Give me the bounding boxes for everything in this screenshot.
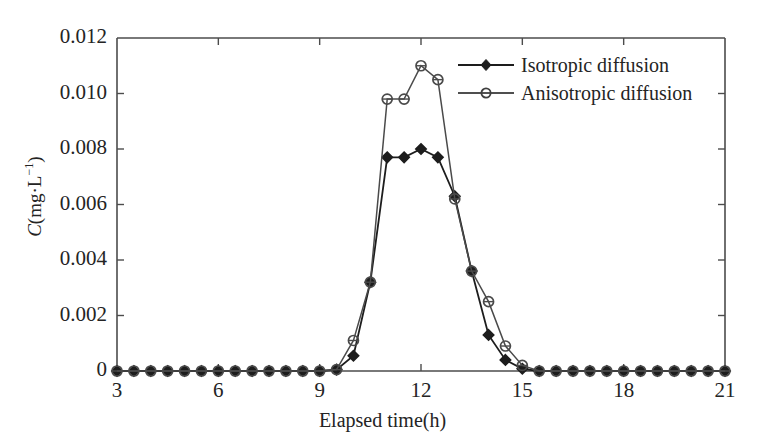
data-series (112, 61, 730, 376)
data-point-marker (433, 152, 443, 162)
x-tick-label: 3 (87, 378, 147, 403)
data-point-marker (483, 330, 493, 340)
series-isotropic (112, 144, 730, 376)
legend-item-isotropic: Isotropic diffusion (458, 53, 669, 77)
data-point-marker (500, 355, 510, 365)
data-point-marker (416, 144, 426, 154)
legend-label-isotropic: Isotropic diffusion (521, 54, 669, 77)
legend-item-anisotropic: Anisotropic diffusion (458, 81, 692, 105)
data-point-marker (399, 152, 409, 162)
x-tick-label: 9 (290, 378, 350, 403)
y-tick-label: 0.006 (0, 191, 107, 216)
chart-figure: 00.0020.0040.0060.0080.0100.012 36912151… (0, 0, 765, 446)
y-tick-label: 0.002 (0, 302, 107, 327)
x-tick-label: 12 (391, 378, 451, 403)
series-anisotropic (112, 61, 730, 376)
legend-swatch-isotropic (458, 56, 514, 74)
data-point-marker (382, 152, 392, 162)
x-tick-label: 6 (188, 378, 248, 403)
x-tick-label: 21 (695, 378, 755, 403)
y-tick-label: 0.010 (0, 80, 107, 105)
x-axis-label: Elapsed time(h) (0, 409, 765, 432)
y-tick-label: 0.008 (0, 135, 107, 160)
legend-swatch-anisotropic (458, 84, 514, 102)
x-tick-label: 18 (594, 378, 654, 403)
filled-diamond-icon (479, 58, 493, 72)
open-circle-icon (479, 86, 493, 100)
x-tick-label: 15 (492, 378, 552, 403)
y-tick-label: 0.004 (0, 246, 107, 271)
y-axis-label: C(mg·L−1) (22, 117, 45, 277)
y-tick-label: 0.012 (0, 24, 107, 49)
legend-label-anisotropic: Anisotropic diffusion (521, 82, 692, 105)
